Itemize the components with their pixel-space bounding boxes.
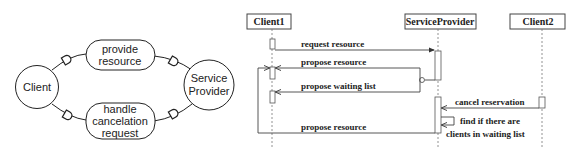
handle-cancelation-label-line3: request — [102, 127, 139, 139]
service-provider-node: Service Provider — [184, 60, 234, 110]
handle-cancelation-process: handle cancelation request — [86, 103, 155, 139]
message-cancel-reservation: cancel reservation — [442, 97, 539, 108]
client1-label: Client1 — [253, 16, 284, 27]
message-label: propose waiting list — [301, 81, 376, 91]
client2-label: Client2 — [522, 16, 553, 27]
service-provider-label-line2: Provider — [189, 85, 230, 97]
message-label: request resource — [301, 39, 364, 49]
lifeline-client2: Client2 — [510, 14, 565, 148]
message-label-line2: clients in waiting list — [446, 129, 525, 139]
service-provider-header-label: ServiceProvider — [406, 16, 475, 27]
message-label: propose resource — [301, 57, 366, 67]
message-find-waiting-clients: find if there are clients in waiting lis… — [441, 116, 525, 139]
activation-client2-1 — [539, 97, 545, 108]
service-provider-label-line1: Service — [191, 72, 228, 84]
activation-client1-3 — [270, 91, 275, 103]
provide-resource-label-line1: provide — [102, 43, 138, 55]
collaboration-diagram: Client Service Provider provide resource… — [16, 40, 235, 139]
lifeline-client1: Client1 — [247, 14, 291, 148]
decision-branch — [420, 68, 436, 92]
message-label: propose resource — [301, 122, 366, 132]
activation-client1-2 — [270, 67, 275, 79]
message-label-line1: find if there are — [460, 116, 520, 126]
handle-cancelation-label-line1: handle — [103, 103, 136, 115]
activation-client1-1 — [270, 39, 275, 49]
client-label: Client — [23, 81, 51, 93]
message-propose-resource-2: propose resource — [258, 68, 435, 133]
d-shaped-port-icon — [61, 54, 72, 65]
client-node: Client — [16, 66, 59, 109]
provide-resource-label-line2: resource — [99, 55, 142, 67]
message-label: cancel reservation — [455, 97, 525, 107]
message-propose-waiting-list: propose waiting list — [276, 81, 420, 92]
activation-sp-2 — [435, 97, 441, 133]
activation-sp-1 — [435, 51, 441, 80]
provide-resource-process: provide resource — [86, 40, 155, 70]
message-propose-resource-1: propose resource — [276, 57, 420, 68]
sequence-diagram: Client1 ServiceProvider Client2 request … — [247, 14, 565, 148]
handle-cancelation-label-line2: cancelation — [92, 115, 148, 127]
diagram-canvas: Client Service Provider provide resource… — [0, 0, 575, 150]
d-shaped-port-icon — [168, 56, 179, 67]
message-request-resource: request resource — [275, 39, 434, 50]
